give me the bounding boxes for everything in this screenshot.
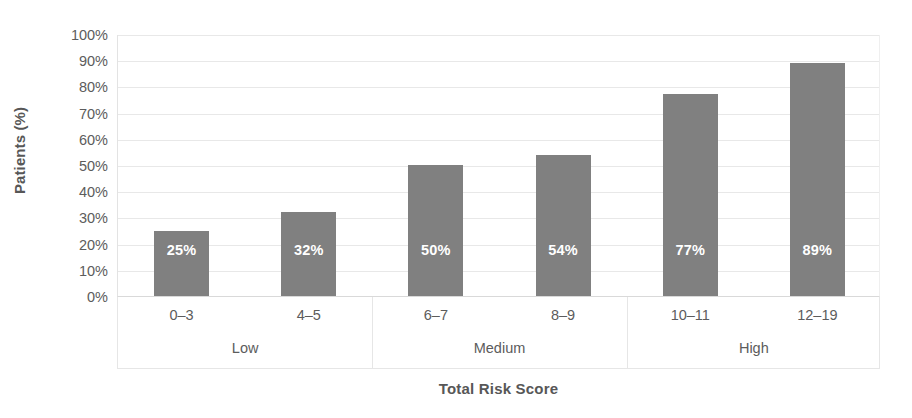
gridline xyxy=(118,192,879,193)
category-tick-label: 4–5 xyxy=(297,307,321,323)
gridline xyxy=(118,140,879,141)
bar[interactable] xyxy=(154,231,209,297)
y-axis-title: Patients (%) xyxy=(2,0,38,300)
y-axis-tick-labels: 0%10%20%30%40%50%60%70%80%90%100% xyxy=(40,0,112,310)
group-label: Medium xyxy=(474,340,526,356)
plot-area: 25%32%50%54%77%89% xyxy=(117,35,880,297)
gridline xyxy=(118,166,879,167)
category-tick-label: 10–11 xyxy=(671,307,710,323)
gridline xyxy=(118,218,879,219)
category-axis: 0–34–56–78–910–1112–19LowMediumHigh xyxy=(117,297,880,369)
y-axis-tick-label: 100% xyxy=(71,27,108,43)
y-axis-tick-label: 40% xyxy=(79,184,108,200)
bar-value-label: 77% xyxy=(663,242,718,258)
category-tick-label: 12–19 xyxy=(797,307,837,323)
y-axis-tick-label: 0% xyxy=(87,289,108,305)
y-axis-tick-label: 70% xyxy=(79,106,108,122)
x-axis-title: Total Risk Score xyxy=(117,380,880,397)
y-axis-title-text: Patients (%) xyxy=(12,106,29,193)
bar[interactable] xyxy=(663,94,718,296)
gridline xyxy=(118,87,879,88)
y-axis-tick-label: 50% xyxy=(79,158,108,174)
gridline xyxy=(118,114,879,115)
bar-value-label: 32% xyxy=(281,242,336,258)
gridline xyxy=(118,35,879,36)
gridline xyxy=(118,245,879,246)
bar-value-label: 89% xyxy=(790,242,845,258)
y-axis-tick-label: 90% xyxy=(79,53,108,69)
group-separator xyxy=(627,297,628,368)
bar[interactable] xyxy=(790,63,845,296)
gridline xyxy=(118,61,879,62)
bar-chart: Patients (%) 0%10%20%30%40%50%60%70%80%9… xyxy=(0,0,912,418)
group-separator xyxy=(372,297,373,368)
bar[interactable] xyxy=(536,155,591,296)
y-axis-tick-label: 80% xyxy=(79,79,108,95)
group-label: High xyxy=(739,340,769,356)
category-tick-label: 6–7 xyxy=(424,307,448,323)
y-axis-tick-label: 20% xyxy=(79,237,108,253)
gridline xyxy=(118,271,879,272)
category-tick-label: 0–3 xyxy=(169,307,193,323)
y-axis-tick-label: 30% xyxy=(79,210,108,226)
group-label: Low xyxy=(232,340,259,356)
bar-value-label: 25% xyxy=(154,242,209,258)
bar[interactable] xyxy=(408,165,463,296)
bar-value-label: 54% xyxy=(536,242,591,258)
bar-value-label: 50% xyxy=(408,242,463,258)
category-tick-label: 8–9 xyxy=(551,307,575,323)
y-axis-tick-label: 10% xyxy=(79,263,108,279)
y-axis-tick-label: 60% xyxy=(79,132,108,148)
